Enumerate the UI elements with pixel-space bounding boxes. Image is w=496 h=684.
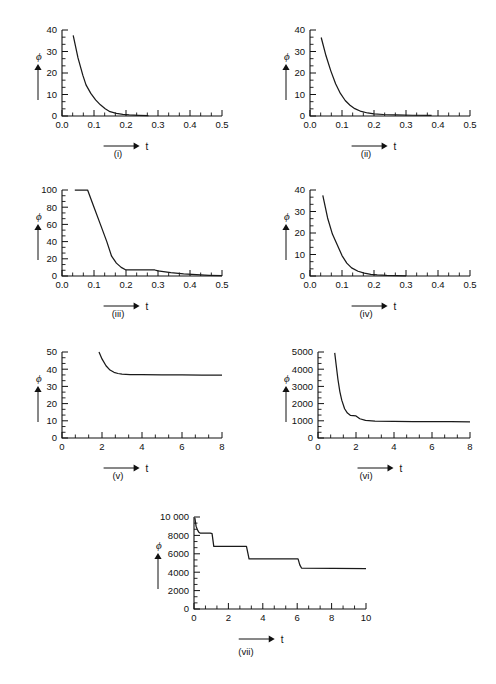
y-tick-label: 30	[46, 46, 57, 57]
chart-caption-vii: (vii)	[216, 646, 276, 657]
y-axis-symbol: ϕ	[36, 50, 42, 62]
chart-ii-content: 0102030400.00.10.20.30.40.5ϕt	[282, 24, 476, 151]
x-tick-label: 0.3	[399, 279, 412, 290]
y-axis-symbol: ϕ	[284, 50, 290, 62]
chart-iii-svg: 0204060801000.00.10.20.30.40.5ϕt	[20, 178, 248, 306]
y-tick-label: 8000	[168, 530, 189, 541]
y-tick-label: 20	[46, 253, 57, 264]
chart-caption-v: (v)	[88, 470, 148, 481]
chart-panel-vii: 0200040006000800010 0000246810ϕt	[132, 505, 382, 640]
y-tick-label: 40	[294, 184, 305, 195]
x-tick-label: 0.1	[87, 119, 100, 130]
x-tick-label: 0.0	[303, 279, 316, 290]
chart-iii-content: 0204060801000.00.10.20.30.40.5ϕt	[34, 184, 228, 311]
chart-vii-svg: 0200040006000800010 0000246810ϕt	[132, 505, 382, 640]
chart-i-svg: 0102030400.00.10.20.30.40.5ϕt	[20, 18, 248, 146]
x-tick-label: 10	[361, 612, 372, 623]
y-tick-label: 30	[294, 46, 305, 57]
chart-iv-svg: 0102030400.00.10.20.30.40.5ϕt	[268, 178, 496, 306]
chart-i-content: 0102030400.00.10.20.30.40.5ϕt	[34, 24, 228, 151]
y-tick-label: 40	[294, 24, 305, 35]
chart-vi-svg: 01000200030004000500002468ϕt	[268, 340, 496, 468]
y-tick-label: 20	[46, 398, 57, 409]
y-axis-arrow-head	[282, 386, 289, 392]
y-tick-label: 30	[46, 381, 57, 392]
y-axis-symbol: ϕ	[284, 210, 290, 222]
x-tick-label: 0.3	[151, 119, 164, 130]
chart-v-content: 0102030405002468ϕt	[34, 346, 224, 473]
x-tick-label: 0.2	[119, 119, 132, 130]
y-tick-label: 40	[46, 24, 57, 35]
chart-iv-content: 0102030400.00.10.20.30.40.5ϕt	[282, 184, 476, 311]
chart-panel-v: 0102030405002468ϕt	[20, 340, 248, 468]
x-tick-label: 8	[219, 441, 224, 452]
y-tick-label: 0	[52, 432, 57, 443]
y-tick-label: 2000	[168, 585, 189, 596]
figure-sheet: 0102030400.00.10.20.30.40.5ϕt (i) 010203…	[0, 0, 496, 684]
x-tick-label: 0.5	[463, 119, 476, 130]
chart-panel-iii: 0204060801000.00.10.20.30.40.5ϕt	[20, 178, 248, 306]
chart-v-svg: 0102030405002468ϕt	[20, 340, 248, 468]
y-tick-label: 20	[294, 227, 305, 238]
y-tick-label: 100	[41, 184, 57, 195]
x-tick-label: 0.3	[399, 119, 412, 130]
y-tick-label: 5000	[292, 346, 313, 357]
y-axis-symbol: ϕ	[156, 539, 162, 551]
y-axis-symbol: ϕ	[284, 372, 290, 384]
y-tick-label: 10 000	[160, 511, 189, 522]
x-tick-label: 2	[99, 441, 104, 452]
y-axis-arrow-head	[34, 64, 41, 70]
x-tick-label: 4	[260, 612, 265, 623]
data-curve-v	[99, 352, 222, 375]
x-axis-symbol: t	[400, 463, 403, 474]
x-tick-label: 6	[179, 441, 184, 452]
chart-vii-content: 0200040006000800010 0000246810ϕt	[154, 511, 371, 644]
y-tick-label: 6000	[168, 548, 189, 559]
x-axis-symbol: t	[281, 634, 284, 645]
y-tick-label: 1000	[292, 415, 313, 426]
y-tick-label: 4000	[292, 364, 313, 375]
chart-caption-ii: (ii)	[336, 148, 396, 159]
x-tick-label: 0.4	[431, 279, 444, 290]
x-tick-label: 0.0	[55, 279, 68, 290]
chart-ii-svg: 0102030400.00.10.20.30.40.5ϕt	[268, 18, 496, 146]
x-tick-label: 0.4	[431, 119, 444, 130]
chart-caption-iii: (iii)	[88, 308, 148, 319]
chart-panel-iv: 0102030400.00.10.20.30.40.5ϕt	[268, 178, 496, 306]
x-tick-label: 0.1	[87, 279, 100, 290]
y-axis-arrow-head	[282, 224, 289, 230]
y-tick-label: 3000	[292, 381, 313, 392]
y-tick-label: 40	[46, 236, 57, 247]
y-axis-arrow-head	[34, 386, 41, 392]
x-tick-label: 6	[295, 612, 300, 623]
y-tick-label: 20	[46, 67, 57, 78]
x-tick-label: 2	[353, 441, 358, 452]
x-tick-label: 0	[315, 441, 320, 452]
y-tick-label: 60	[46, 219, 57, 230]
y-axis-arrow-head	[282, 64, 289, 70]
y-tick-label: 50	[46, 346, 57, 357]
y-tick-label: 30	[294, 206, 305, 217]
x-tick-label: 0.3	[151, 279, 164, 290]
data-curve-ii	[321, 38, 431, 116]
x-tick-label: 0	[59, 441, 64, 452]
x-tick-label: 0.2	[367, 279, 380, 290]
x-tick-label: 0.5	[463, 279, 476, 290]
x-axis-arrow-head	[269, 636, 275, 643]
chart-vi-content: 01000200030004000500002468ϕt	[282, 346, 472, 473]
x-tick-label: 0.5	[215, 119, 228, 130]
x-tick-label: 0.1	[335, 119, 348, 130]
y-tick-label: 10	[294, 249, 305, 260]
y-tick-label: 20	[294, 67, 305, 78]
x-tick-label: 4	[139, 441, 144, 452]
x-tick-label: 0.0	[303, 119, 316, 130]
y-axis-arrow-head	[154, 553, 161, 559]
data-curve-vii	[195, 518, 366, 569]
x-tick-label: 0.4	[183, 119, 196, 130]
x-tick-label: 0.2	[367, 119, 380, 130]
y-tick-label: 40	[46, 364, 57, 375]
chart-panel-ii: 0102030400.00.10.20.30.40.5ϕt	[268, 18, 496, 146]
chart-caption-i: (i)	[88, 148, 148, 159]
y-axis-symbol: ϕ	[36, 210, 42, 222]
chart-panel-i: 0102030400.00.10.20.30.40.5ϕt	[20, 18, 248, 146]
